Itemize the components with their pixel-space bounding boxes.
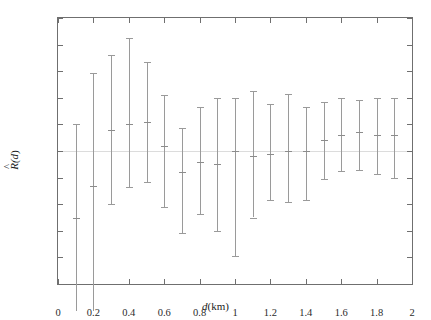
error-bar-cap-upper bbox=[179, 128, 186, 129]
error-bar-cap-upper bbox=[197, 107, 204, 108]
error-bar-cap-upper bbox=[90, 73, 97, 74]
y-axis-title: ^R(d) bbox=[8, 150, 20, 170]
error-bar-cap-lower bbox=[232, 256, 239, 257]
error-bar-line bbox=[359, 100, 360, 169]
error-bar-cap-lower bbox=[144, 182, 151, 183]
x-axis-tick-top bbox=[412, 18, 413, 23]
x-axis-tick bbox=[377, 279, 378, 284]
y-axis-tick bbox=[58, 98, 63, 99]
y-axis-tick bbox=[58, 231, 63, 232]
error-bar-cap-upper bbox=[108, 55, 115, 56]
x-axis-tick bbox=[341, 279, 342, 284]
error-bar-cap-lower bbox=[108, 204, 115, 205]
x-axis-tick-top bbox=[235, 18, 236, 23]
x-axis-tick bbox=[235, 279, 236, 284]
data-point-marker bbox=[197, 162, 204, 163]
error-bar-cap-lower bbox=[391, 178, 398, 179]
error-bar-line bbox=[164, 95, 165, 207]
error-bar-cap-upper bbox=[285, 94, 292, 95]
x-axis-tick bbox=[129, 279, 130, 284]
error-bar-cap-upper bbox=[214, 98, 221, 99]
error-bar-cap-lower bbox=[161, 207, 168, 208]
error-bar-cap-lower bbox=[126, 187, 133, 188]
error-bar-line bbox=[129, 38, 130, 187]
error-bar-line bbox=[253, 91, 254, 217]
error-bar-line bbox=[288, 94, 289, 202]
error-bar-line bbox=[182, 128, 183, 233]
x-axis-tick-top bbox=[377, 18, 378, 23]
error-bar-cap-upper bbox=[356, 100, 363, 101]
error-bar-cap-lower bbox=[338, 171, 345, 172]
error-bar-line bbox=[394, 98, 395, 178]
error-bar-cap-lower bbox=[179, 233, 186, 234]
data-point-marker bbox=[73, 218, 80, 219]
error-bar-cap-upper bbox=[391, 98, 398, 99]
error-bar-cap-lower bbox=[250, 218, 257, 219]
error-bar-cap-lower bbox=[267, 200, 274, 201]
y-axis-tick-right bbox=[407, 151, 412, 152]
x-axis-tick-top bbox=[200, 18, 201, 23]
y-axis-tick bbox=[58, 151, 63, 152]
data-point-marker bbox=[391, 135, 398, 136]
data-point-marker bbox=[232, 151, 239, 152]
error-bar-cap-upper bbox=[73, 124, 80, 125]
y-axis-tick-right bbox=[407, 71, 412, 72]
x-axis-tick bbox=[270, 279, 271, 284]
data-point-marker bbox=[214, 164, 221, 165]
data-point-marker bbox=[126, 124, 133, 125]
x-axis-title: d(km) bbox=[0, 300, 431, 312]
y-axis-tick-right bbox=[407, 124, 412, 125]
error-bar-cap-upper bbox=[267, 104, 274, 105]
error-bar-cap-upper bbox=[338, 98, 345, 99]
chart-figure: ^R(d) 0.50.40.30.20.10–0.1–0.2–0.3–0.4–0… bbox=[0, 0, 431, 320]
error-bar-cap-upper bbox=[126, 38, 133, 39]
error-bar-cap-lower bbox=[303, 200, 310, 201]
x-axis-tick bbox=[58, 279, 59, 284]
error-bar-line bbox=[235, 98, 236, 256]
y-axis-tick-right bbox=[407, 98, 412, 99]
x-axis-tick bbox=[412, 279, 413, 284]
error-bar-cap-upper bbox=[303, 107, 310, 108]
y-axis-tick-right bbox=[407, 178, 412, 179]
data-point-marker bbox=[356, 132, 363, 133]
y-axis-tick bbox=[58, 124, 63, 125]
y-axis-tick-right bbox=[407, 204, 412, 205]
y-axis-tick bbox=[58, 257, 63, 258]
data-point-marker bbox=[303, 151, 310, 152]
y-axis-arg: (d bbox=[8, 154, 20, 163]
error-bar-cap-upper bbox=[321, 102, 328, 103]
y-axis-tick bbox=[58, 178, 63, 179]
error-bar-cap-lower bbox=[214, 231, 221, 232]
data-point-marker bbox=[285, 151, 292, 152]
y-axis-tick bbox=[58, 71, 63, 72]
error-bar-line bbox=[270, 104, 271, 200]
y-axis-hat-accent: ^ bbox=[1, 163, 12, 170]
error-bar-cap-lower bbox=[356, 170, 363, 171]
x-axis-tick bbox=[306, 279, 307, 284]
error-bar-cap-upper bbox=[250, 91, 257, 92]
x-axis-tick-top bbox=[270, 18, 271, 23]
y-axis-tick-right bbox=[407, 45, 412, 46]
error-bar-cap-lower bbox=[321, 179, 328, 180]
error-bar-cap-lower bbox=[285, 202, 292, 203]
error-bar-cap-upper bbox=[144, 62, 151, 63]
y-axis-tick bbox=[58, 45, 63, 46]
error-bar-cap-upper bbox=[374, 98, 381, 99]
y-axis-tick-right bbox=[407, 284, 412, 285]
y-axis-tick bbox=[58, 204, 63, 205]
x-axis-tick-top bbox=[93, 18, 94, 23]
data-point-marker bbox=[179, 172, 186, 173]
x-axis-unit: (km) bbox=[208, 300, 229, 312]
x-axis-tick-top bbox=[341, 18, 342, 23]
error-bar-line bbox=[306, 107, 307, 200]
error-bar-cap-upper bbox=[232, 98, 239, 99]
x-axis-tick-top bbox=[58, 18, 59, 23]
data-point-marker bbox=[374, 135, 381, 136]
y-axis-tick-right bbox=[407, 231, 412, 232]
x-axis-tick bbox=[200, 279, 201, 284]
error-bar-cap-lower bbox=[197, 214, 204, 215]
x-axis-tick-top bbox=[306, 18, 307, 23]
error-bar-cap-upper bbox=[161, 95, 168, 96]
plot-inner: 0.50.40.30.20.10–0.1–0.2–0.3–0.4–0.500.2… bbox=[58, 18, 412, 284]
x-axis-tick-top bbox=[129, 18, 130, 23]
